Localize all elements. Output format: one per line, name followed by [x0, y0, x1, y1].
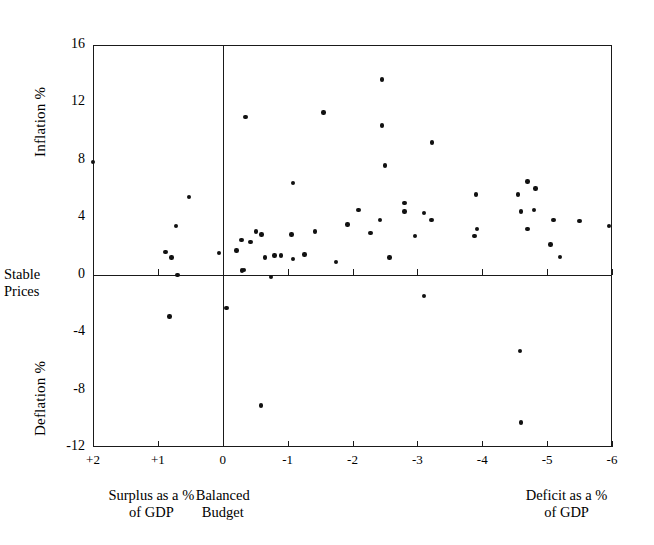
- data-point: [518, 349, 522, 353]
- data-point: [380, 77, 384, 81]
- x-tick-mark-zeroline: [482, 269, 483, 275]
- y-axis-title-inflation: Inflation %: [32, 87, 49, 157]
- x-tick-mark-zeroline: [612, 269, 613, 275]
- stable-prices-reference-line: [93, 275, 612, 276]
- y-tick-label: 12: [51, 94, 85, 108]
- x-tick-label: -1: [268, 453, 308, 467]
- stable-prices-label: Stable Prices: [4, 266, 40, 300]
- x-tick-mark: [353, 441, 354, 447]
- x-tick-mark: [288, 441, 289, 447]
- x-tick-mark: [417, 441, 418, 447]
- data-point: [243, 115, 247, 119]
- data-point: [321, 110, 325, 114]
- data-point: [607, 224, 611, 228]
- x-tick-label: 0: [203, 453, 243, 467]
- data-point: [383, 163, 387, 167]
- data-point: [387, 255, 391, 259]
- y-tick-label: 8: [51, 152, 85, 166]
- y-tick-label: 16: [51, 37, 85, 51]
- x-tick-label: -2: [333, 453, 373, 467]
- data-point: [525, 227, 529, 231]
- caption-balanced-line-1: Balanced: [153, 487, 293, 504]
- x-tick-mark-zeroline: [353, 269, 354, 275]
- data-point: [345, 222, 349, 226]
- data-point: [356, 208, 360, 212]
- x-axis-caption-balanced-budget: Balanced Budget: [153, 487, 293, 521]
- data-point: [516, 192, 520, 196]
- data-point: [302, 252, 306, 256]
- data-point: [259, 232, 263, 236]
- data-point: [263, 255, 267, 259]
- x-tick-label: +1: [138, 453, 178, 467]
- x-tick-label: -3: [397, 453, 437, 467]
- caption-deficit-line-2: of GDP: [492, 504, 642, 521]
- x-tick-label: -6: [592, 453, 632, 467]
- x-tick-mark: [547, 441, 548, 447]
- data-point: [163, 250, 167, 254]
- y-tick-label: 4: [51, 209, 85, 223]
- data-point: [313, 229, 317, 233]
- data-point: [167, 314, 171, 318]
- data-point: [272, 253, 276, 257]
- data-point: [474, 192, 478, 196]
- x-tick-label: -4: [462, 453, 502, 467]
- data-point: [380, 123, 384, 127]
- x-tick-mark: [93, 441, 94, 447]
- data-point: [548, 242, 552, 246]
- stable-prices-line-1: Stable: [4, 266, 40, 283]
- x-tick-mark-zeroline: [93, 269, 94, 275]
- x-tick-mark: [158, 441, 159, 447]
- data-point: [525, 179, 529, 183]
- x-axis-caption-deficit: Deficit as a % of GDP: [492, 487, 642, 521]
- x-tick-label: -5: [527, 453, 567, 467]
- data-point: [279, 253, 283, 257]
- y-tick-label: 0: [51, 267, 85, 281]
- data-point: [254, 229, 258, 233]
- data-point: [234, 248, 238, 252]
- x-tick-mark-zeroline: [158, 269, 159, 275]
- y-tick-label: -8: [51, 382, 85, 396]
- x-tick-mark-zeroline: [288, 269, 289, 275]
- data-point: [291, 257, 295, 261]
- data-point: [472, 234, 476, 238]
- scatter-plot-figure: +2+10-1-2-3-4-5-6 1612840-4-8-12 Inflati…: [0, 0, 654, 545]
- plot-area-frame: [93, 45, 612, 447]
- y-tick-label: -12: [51, 439, 85, 453]
- x-tick-label: +2: [73, 453, 113, 467]
- data-point: [175, 273, 179, 277]
- data-point: [169, 255, 173, 259]
- data-point: [402, 201, 406, 205]
- x-tick-mark-zeroline: [547, 269, 548, 275]
- data-point: [248, 240, 252, 244]
- x-tick-mark: [612, 441, 613, 447]
- data-point: [269, 275, 273, 279]
- data-point: [259, 403, 263, 407]
- y-axis-title-deflation: Deflation %: [32, 361, 49, 436]
- caption-deficit-line-1: Deficit as a %: [492, 487, 642, 504]
- caption-balanced-line-2: Budget: [153, 504, 293, 521]
- data-point: [224, 306, 228, 310]
- data-point: [289, 232, 293, 236]
- data-point: [413, 234, 417, 238]
- data-point: [402, 209, 406, 213]
- balanced-budget-reference-line: [223, 45, 224, 447]
- y-tick-label: -4: [51, 324, 85, 338]
- data-point: [291, 181, 295, 185]
- data-point: [533, 186, 537, 190]
- data-point: [577, 219, 581, 223]
- x-tick-mark-zeroline: [417, 269, 418, 275]
- x-tick-mark: [482, 441, 483, 447]
- stable-prices-line-2: Prices: [4, 283, 40, 300]
